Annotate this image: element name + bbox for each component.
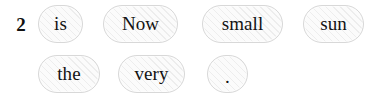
token-pill[interactable]: . [207,55,248,93]
token-pill[interactable]: very [118,55,185,93]
token-pill[interactable]: sun [303,5,364,43]
token-label: sun [320,14,347,33]
token-pill[interactable]: Now [103,5,178,43]
token-label: Now [122,14,159,33]
token-label: the [57,64,81,83]
token-label: small [222,14,264,33]
token-label: . [225,67,230,86]
token-label: is [54,14,67,33]
row-label: 2 [12,15,30,34]
token-pill[interactable]: is [38,5,83,43]
token-board: 2isNowsmallsunthevery. [0,0,378,99]
token-label: very [134,64,168,83]
token-pill[interactable]: small [202,5,283,43]
token-pill[interactable]: the [38,55,100,93]
